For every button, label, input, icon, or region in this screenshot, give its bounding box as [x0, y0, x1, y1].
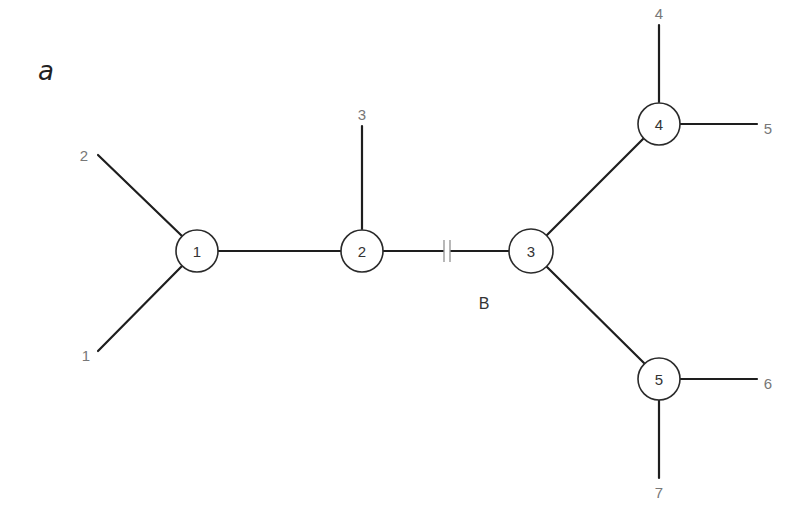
node-label: 4	[655, 116, 663, 133]
tree-diagram: a 1 2 3 4 5 2 1 3 4 5 6	[0, 0, 807, 525]
leaf-label-1: 1	[82, 347, 90, 364]
node-label: 2	[358, 243, 366, 260]
node-label: 3	[527, 243, 535, 260]
node-label: 1	[193, 243, 201, 260]
leaf-label-7: 7	[655, 484, 663, 501]
internal-node-4: 4	[638, 103, 680, 145]
internal-node-1: 1	[176, 230, 218, 272]
edge-node3-node4	[546, 138, 644, 236]
panel-label: a	[38, 56, 54, 86]
edge-node1-leaf2	[98, 155, 182, 236]
edge-node1-leaf1	[98, 266, 182, 351]
internal-node-2: 2	[341, 230, 383, 272]
leaf-label-2: 2	[80, 147, 88, 164]
edge-node3-node5	[546, 266, 644, 363]
leaf-label-5: 5	[764, 120, 772, 137]
internal-node-3: 3	[509, 229, 553, 273]
branch-label: B	[479, 295, 490, 312]
leaf-label-3: 3	[358, 106, 366, 123]
internal-node-5: 5	[638, 358, 680, 400]
leaf-label-4: 4	[655, 5, 663, 22]
leaf-label-6: 6	[764, 375, 772, 392]
node-label: 5	[655, 371, 663, 388]
